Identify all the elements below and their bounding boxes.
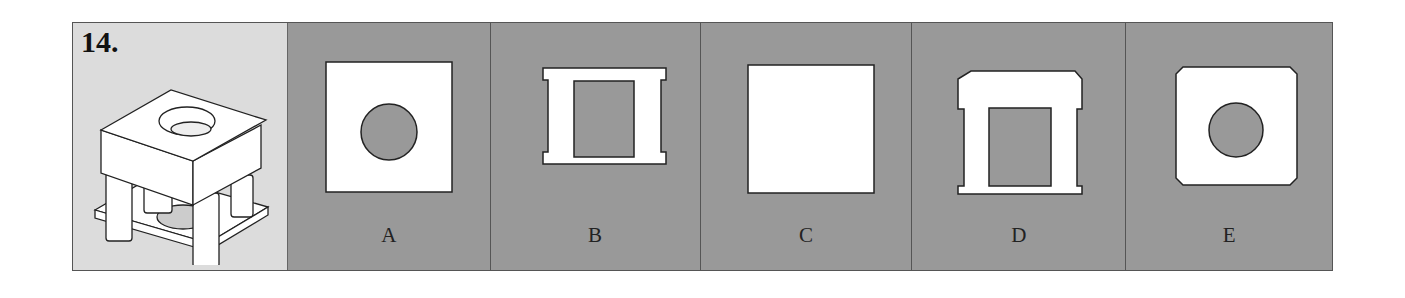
option-b[interactable]: B	[491, 23, 701, 270]
option-c[interactable]: C	[701, 23, 913, 270]
option-d[interactable]: D	[912, 23, 1126, 270]
option-label: D	[912, 223, 1125, 248]
option-a[interactable]: A	[288, 23, 491, 270]
option-label: A	[288, 223, 490, 248]
option-label: E	[1126, 223, 1332, 248]
question-panel: 14.	[73, 23, 288, 270]
isometric-object-icon	[91, 65, 271, 265]
question-number: 14.	[81, 25, 119, 59]
option-e[interactable]: E	[1126, 23, 1332, 270]
option-label: B	[491, 223, 700, 248]
question-frame: 14.	[72, 22, 1333, 271]
option-label: C	[701, 223, 912, 248]
